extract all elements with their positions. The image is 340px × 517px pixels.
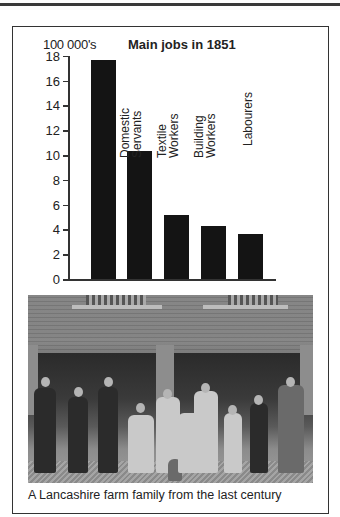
person-head xyxy=(201,383,210,393)
person-head xyxy=(74,387,83,397)
person xyxy=(250,403,268,473)
person-head xyxy=(286,377,295,387)
person xyxy=(98,387,118,473)
y-tick-label: 6 xyxy=(30,199,60,212)
bar xyxy=(127,151,152,279)
y-tick-label: 12 xyxy=(30,124,60,137)
y-axis xyxy=(68,56,70,279)
person xyxy=(224,413,242,473)
top-rule xyxy=(0,3,340,6)
person xyxy=(68,397,88,473)
y-tick-label: 4 xyxy=(30,223,60,236)
bar xyxy=(164,215,189,279)
bar xyxy=(201,226,226,279)
y-tick-label: 18 xyxy=(30,50,60,63)
category-label-labourers: Labourers xyxy=(242,92,254,146)
category-label-textile-workers: Textile Workers xyxy=(156,114,180,158)
person-head xyxy=(163,389,172,399)
window xyxy=(228,295,278,305)
window xyxy=(86,295,146,305)
y-tick xyxy=(63,155,69,157)
person xyxy=(34,388,56,473)
person xyxy=(194,391,218,473)
y-tick-label: 14 xyxy=(30,99,60,112)
y-tick-label: 2 xyxy=(30,248,60,261)
photo-caption: A Lancashire farm family from the last c… xyxy=(28,488,282,502)
person-head xyxy=(104,377,113,387)
chart-title: Main jobs in 1851 xyxy=(128,37,236,52)
y-tick xyxy=(63,229,69,231)
farm-family-photo xyxy=(28,295,313,483)
y-tick xyxy=(63,205,69,207)
person-head xyxy=(254,395,263,405)
category-label-domestic-servants: Domestic Servants xyxy=(119,108,143,158)
person xyxy=(278,385,304,473)
y-tick xyxy=(63,279,69,281)
window-sill xyxy=(203,305,288,309)
y-tick xyxy=(63,81,69,83)
window-sill xyxy=(72,305,162,309)
person-head xyxy=(228,405,237,415)
y-tick-label: 16 xyxy=(30,75,60,88)
x-axis xyxy=(68,279,276,281)
y-tick xyxy=(63,105,69,107)
category-label-building-workers: Building Workers xyxy=(193,114,217,158)
y-tick xyxy=(63,130,69,132)
y-tick-label: 10 xyxy=(30,149,60,162)
y-tick xyxy=(63,180,69,182)
bar xyxy=(238,234,263,279)
y-tick xyxy=(63,56,69,58)
y-tick-label: 0 xyxy=(30,273,60,286)
person-head xyxy=(41,377,50,387)
bar xyxy=(91,60,116,279)
y-tick-label: 8 xyxy=(30,174,60,187)
person-head xyxy=(136,403,145,413)
y-tick xyxy=(63,254,69,256)
person xyxy=(128,415,154,473)
